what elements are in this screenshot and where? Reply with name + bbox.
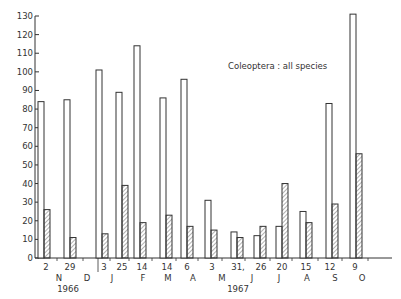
y-tick-label: 120	[17, 30, 33, 40]
day-label: 31,	[231, 262, 245, 272]
bar-hatched	[332, 204, 338, 258]
bar-hatched	[187, 226, 193, 258]
bar-hatched	[102, 234, 108, 258]
month-label: J	[277, 273, 281, 283]
y-tick-label: 90	[22, 85, 33, 95]
y-tick-label: 60	[22, 141, 33, 151]
bar-hatched	[70, 238, 76, 258]
y-tick-label: 70	[22, 123, 33, 133]
day-label: 15	[301, 262, 312, 272]
month-label: M	[164, 273, 171, 283]
bar-open	[254, 236, 260, 258]
bar-open	[64, 100, 70, 258]
y-tick-label: 110	[17, 48, 33, 58]
month-label: F	[141, 273, 146, 283]
year-label: 1967	[227, 284, 249, 294]
bar-open	[231, 232, 237, 258]
bar-hatched	[237, 238, 243, 258]
day-label: 9	[352, 262, 357, 272]
bar-open	[134, 46, 140, 258]
x-labels: 22932514146331,262015129NDJFMAMJJASO1966…	[43, 262, 365, 294]
day-label: 26	[256, 262, 267, 272]
day-label: 12	[325, 262, 336, 272]
day-label: 6	[184, 262, 189, 272]
y-tick-label: 20	[22, 216, 33, 226]
day-label: 14	[162, 262, 173, 272]
bar-hatched	[44, 210, 50, 258]
bar-open	[205, 200, 211, 258]
month-label: D	[84, 273, 91, 283]
day-label: 20	[277, 262, 288, 272]
bar-open	[160, 98, 166, 258]
year-label: 1966	[57, 284, 79, 294]
bar-hatched	[306, 223, 312, 258]
bar-open	[116, 92, 122, 258]
bar-open	[181, 79, 187, 258]
chart-title: Coleoptera : all species	[228, 61, 328, 71]
month-label: O	[359, 273, 366, 283]
month-label: A	[190, 273, 196, 283]
bar-hatched	[166, 215, 172, 258]
month-label: A	[304, 273, 310, 283]
y-tick-label: 50	[22, 160, 33, 170]
y-tick-label: 0	[28, 253, 33, 263]
bar-chart: 0102030405060708090100110120130 22932514…	[0, 0, 401, 299]
y-axis: 0102030405060708090100110120130	[17, 11, 39, 263]
bar-open	[38, 102, 44, 258]
y-tick-label: 100	[17, 67, 33, 77]
bar-hatched	[260, 226, 266, 258]
bar-hatched	[211, 230, 217, 258]
y-tick-label: 40	[22, 179, 33, 189]
day-label: 29	[65, 262, 76, 272]
y-tick-label: 130	[17, 11, 33, 21]
day-label: 25	[117, 262, 128, 272]
month-label: S	[332, 273, 337, 283]
day-label: 14	[137, 262, 148, 272]
y-tick-label: 10	[22, 234, 33, 244]
bar-open	[300, 211, 306, 258]
bar-open	[276, 226, 282, 258]
bar-hatched	[122, 185, 128, 258]
bar-hatched	[140, 223, 146, 258]
bar-open	[326, 103, 332, 258]
bar-hatched	[282, 184, 288, 258]
bar-hatched	[356, 154, 362, 258]
y-tick-label: 30	[22, 197, 33, 207]
month-label: J	[250, 273, 254, 283]
month-label: N	[56, 273, 62, 283]
day-label: 3	[101, 262, 106, 272]
bar-open	[350, 14, 356, 258]
bar-open	[96, 70, 102, 258]
y-tick-label: 80	[22, 104, 33, 114]
month-label: M	[218, 273, 225, 283]
day-label: 3	[209, 262, 214, 272]
month-label: J	[110, 273, 114, 283]
day-label: 2	[43, 262, 48, 272]
bars	[38, 14, 362, 258]
